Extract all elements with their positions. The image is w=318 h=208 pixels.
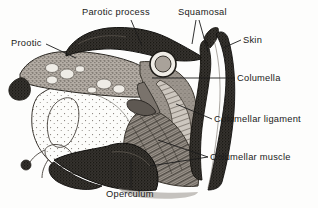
label-columellar-muscle: Columellar muscle xyxy=(210,153,291,162)
columella-head xyxy=(150,51,176,77)
label-parotic-process: Parotic process xyxy=(82,8,150,17)
prootic-anterior-tip xyxy=(9,78,31,100)
anatomical-figure: Parotic process Squamosal Prootic Skin C… xyxy=(0,0,318,208)
label-columellar-ligament: Columellar ligament xyxy=(214,115,301,124)
specimen-section xyxy=(9,27,235,198)
cartilage-nodule xyxy=(21,160,31,170)
label-skin: Skin xyxy=(243,36,262,45)
label-squamosal: Squamosal xyxy=(178,8,227,17)
label-operculum: Operculum xyxy=(106,190,154,199)
label-prootic: Prootic xyxy=(11,39,42,48)
label-columella: Columella xyxy=(237,74,281,83)
anatomy-illustration xyxy=(0,0,318,208)
leader-squamosal-anterior xyxy=(192,20,196,44)
skin xyxy=(208,32,235,190)
